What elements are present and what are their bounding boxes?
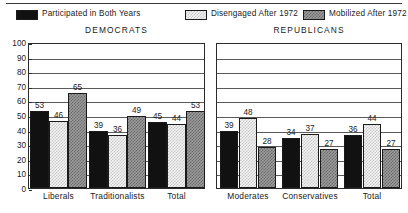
bar (382, 149, 401, 188)
gridline-60 (217, 102, 401, 103)
bar-value-label: 37 (305, 125, 314, 133)
x-axis-category-label: Total (363, 192, 382, 200)
y-axis-tick-30: 30 (4, 142, 26, 150)
y-axis-tick-0: 0 (4, 186, 26, 194)
bar-value-label: 44 (172, 115, 181, 123)
panel-title-democrats: DEMOCRATS (28, 26, 205, 34)
panel-democrats: DEMOCRATS 0102030405060708090100534665Li… (28, 0, 205, 213)
bar (344, 135, 363, 188)
y-axis-tickmark-80 (29, 73, 32, 74)
bar-value-label: 39 (224, 122, 233, 130)
bar (167, 124, 186, 188)
bar (301, 134, 320, 188)
x-axis-category-label: Liberals (43, 192, 74, 200)
y-axis-tick-20: 20 (4, 157, 26, 165)
bar (239, 118, 258, 188)
bar (186, 111, 205, 188)
x-axis-category-label: Total (167, 192, 186, 200)
x-axis-category-label: Traditionalists (90, 192, 144, 200)
bar-value-label: 49 (132, 107, 141, 115)
bar (68, 93, 87, 188)
bar (108, 135, 127, 188)
y-axis-tick-90: 90 (4, 54, 26, 62)
bar (282, 138, 301, 188)
plot-area-republicans: 394828Moderates343727Conservatives364427… (216, 43, 402, 189)
bar (49, 121, 68, 188)
gridline-70 (29, 88, 204, 89)
bar-value-label: 27 (324, 140, 333, 148)
bar-value-label: 36 (113, 126, 122, 134)
bar (30, 111, 49, 188)
bar-value-label: 36 (348, 126, 357, 134)
panel-republicans: REPUBLICANS 394828Moderates343727Conserv… (216, 0, 402, 213)
y-axis-tickmark-60 (29, 102, 32, 103)
y-axis-tick-50: 50 (4, 113, 26, 121)
y-axis-tickmark-90 (29, 59, 32, 60)
y-axis-tickmark-0 (29, 190, 32, 191)
bar-value-label: 46 (54, 112, 63, 120)
bar (89, 131, 108, 188)
bar (220, 131, 239, 188)
y-axis-tick-40: 40 (4, 127, 26, 135)
bar (127, 116, 146, 188)
bar-value-label: 53 (191, 102, 200, 110)
y-axis-tick-80: 80 (4, 69, 26, 77)
bar (258, 147, 277, 188)
y-axis-tick-10: 10 (4, 171, 26, 179)
x-axis-category-label: Moderates (227, 192, 268, 200)
figure-root: Participated in Both YearsDisengaged Aft… (0, 0, 408, 213)
plot-area-democrats: 0102030405060708090100534665Liberals3936… (28, 43, 205, 189)
bar-value-label: 44 (367, 115, 376, 123)
gridline-60 (29, 102, 204, 103)
bar-value-label: 27 (386, 140, 395, 148)
gridline-90 (29, 59, 204, 60)
bar-value-label: 53 (35, 102, 44, 110)
bar-value-label: 48 (243, 109, 252, 117)
y-axis-tick-60: 60 (4, 98, 26, 106)
bar-value-label: 45 (153, 113, 162, 121)
y-axis-tickmark-70 (29, 88, 32, 89)
panel-title-republicans: REPUBLICANS (216, 26, 402, 34)
y-axis-tick-100: 100 (4, 40, 26, 48)
gridline-70 (217, 88, 401, 89)
bar (320, 149, 339, 188)
gridline-90 (217, 59, 401, 60)
bar-value-label: 65 (73, 84, 82, 92)
y-axis-tickmark-100 (29, 44, 32, 45)
gridline-80 (217, 73, 401, 74)
y-axis-tick-70: 70 (4, 84, 26, 92)
bar-value-label: 34 (286, 129, 295, 137)
x-axis-category-label: Conservatives (282, 192, 338, 200)
bar (148, 122, 167, 188)
bar (363, 124, 382, 188)
bar-value-label: 39 (94, 122, 103, 130)
gridline-80 (29, 73, 204, 74)
bar-value-label: 28 (262, 138, 271, 146)
